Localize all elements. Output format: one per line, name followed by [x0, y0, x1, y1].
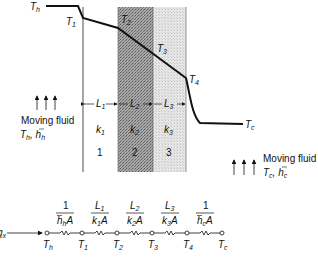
composite-wall-diagram: Th T1 T2 T3 T4 Tc L1 L2 L3 k1 k2 k3 1 2 …: [0, 0, 318, 262]
cold-fluid-props: Tc, hc: [263, 167, 288, 179]
hot-fluid-title: Moving fluid: [21, 115, 74, 126]
svg-text:hhA: hhA: [57, 215, 73, 227]
svg-text:L3: L3: [165, 200, 175, 212]
svg-text:k3A: k3A: [162, 215, 178, 227]
thermal-circuit: qx Th T1 T2 T3 T4 Tc 1 hhA L1 k: [0, 200, 228, 251]
svg-text:T1: T1: [66, 16, 76, 28]
svg-text:k2A: k2A: [127, 215, 143, 227]
svg-text:T3: T3: [148, 239, 158, 251]
svg-text:L1: L1: [95, 200, 105, 212]
svg-text:hcA: hcA: [197, 215, 213, 227]
layer-number-1: 1: [97, 147, 103, 158]
cold-fluid-arrows: [234, 160, 254, 175]
svg-text:T4: T4: [183, 239, 193, 251]
svg-text:1: 1: [63, 200, 69, 211]
svg-text:k1: k1: [96, 124, 105, 136]
svg-text:Th: Th: [43, 239, 53, 251]
cold-fluid-title: Moving fluid: [263, 153, 316, 164]
svg-text:k1A: k1A: [92, 215, 108, 227]
svg-text:Tc: Tc: [245, 119, 255, 131]
svg-text:Th: Th: [30, 1, 40, 13]
svg-text:L1: L1: [96, 98, 106, 110]
hot-fluid-arrows: [37, 96, 55, 110]
svg-text:qx: qx: [0, 227, 7, 239]
svg-text:1: 1: [203, 200, 209, 211]
svg-text:L2: L2: [130, 200, 140, 212]
layer-number-2: 2: [132, 147, 138, 158]
svg-text:Tc: Tc: [218, 239, 228, 251]
svg-text:T4: T4: [189, 74, 199, 86]
svg-text:T2: T2: [113, 239, 123, 251]
hot-fluid-props: Th, hh: [20, 129, 45, 141]
layer-number-3: 3: [166, 147, 172, 158]
svg-text:T1: T1: [78, 239, 88, 251]
